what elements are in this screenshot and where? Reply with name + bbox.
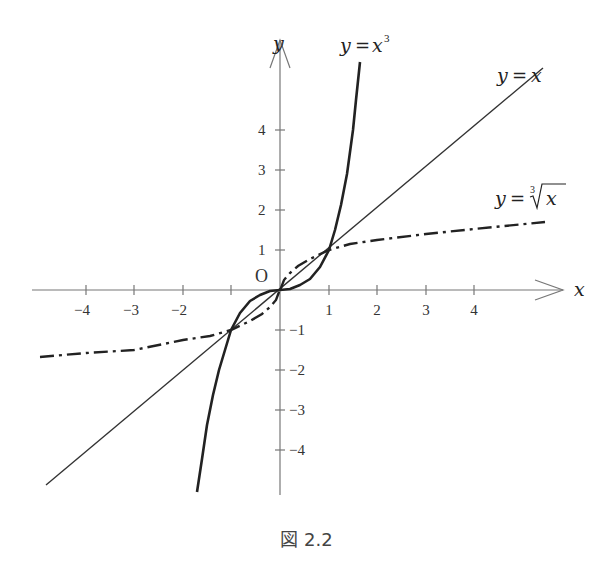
svg-text:=: =	[510, 188, 525, 209]
svg-text:4: 4	[470, 302, 478, 318]
curve-identity	[46, 68, 543, 485]
svg-text:=: =	[355, 35, 370, 56]
y-axis-label: y	[272, 32, 284, 54]
svg-text:y: y	[339, 34, 351, 56]
svg-text:2: 2	[373, 302, 381, 318]
function-graph: −4 −3 −2 1 2 3 4 4 3 2 1 −1 −2 −3 −4 y x…	[0, 0, 613, 571]
svg-text:−2: −2	[289, 362, 305, 378]
label-cube-root: y = 3 x	[494, 184, 566, 209]
svg-text:x: x	[372, 34, 383, 56]
svg-text:−1: −1	[289, 322, 305, 338]
svg-text:x: x	[546, 187, 557, 209]
svg-text:3: 3	[258, 162, 266, 178]
svg-text:3: 3	[384, 32, 390, 44]
svg-text:1: 1	[258, 242, 266, 258]
x-axis-label: x	[574, 278, 585, 300]
figure-caption: 図 2.2	[0, 525, 613, 551]
curve-cube	[197, 62, 360, 492]
x-axis	[32, 280, 563, 300]
label-identity: y = x	[496, 64, 542, 86]
label-cube: y = x 3	[339, 32, 390, 56]
svg-text:=: =	[512, 65, 527, 86]
x-tick-labels: −4 −3 −2 1 2 3 4	[74, 302, 478, 318]
svg-text:y: y	[494, 187, 506, 209]
svg-text:−3: −3	[123, 302, 139, 318]
svg-text:y: y	[496, 64, 508, 86]
svg-text:4: 4	[258, 122, 266, 138]
svg-text:3: 3	[530, 184, 535, 195]
origin-label: O	[255, 266, 268, 286]
svg-text:1: 1	[325, 302, 333, 318]
y-axis	[270, 40, 290, 495]
svg-text:x: x	[531, 64, 542, 86]
svg-text:−3: −3	[289, 402, 305, 418]
svg-text:2: 2	[258, 202, 266, 218]
svg-text:3: 3	[422, 302, 430, 318]
svg-text:−2: −2	[171, 302, 187, 318]
svg-text:−4: −4	[289, 442, 305, 458]
svg-text:−4: −4	[74, 302, 90, 318]
